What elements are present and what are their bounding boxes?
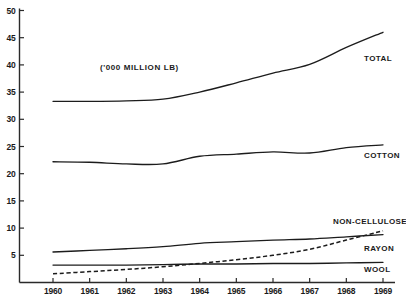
- y-tick-label: 50: [6, 6, 16, 16]
- x-tick-label: 1967: [301, 286, 320, 296]
- x-tick-label: 1966: [264, 286, 283, 296]
- x-tick-label: 1968: [337, 286, 356, 296]
- line-chart: 5101520253035404550 19601961196219631964…: [0, 0, 406, 302]
- series-label-cotton: COTTON: [364, 151, 400, 160]
- series-label-wool: WOOL: [364, 265, 390, 274]
- x-axis: 1960196119621963196419651966196719681969: [20, 278, 396, 296]
- x-tick-label: 1961: [81, 286, 100, 296]
- series-line-wool: [53, 262, 383, 265]
- x-tick-label: 1969: [374, 286, 393, 296]
- units-annotation: ('000 MILLION LB): [100, 63, 179, 72]
- x-tick-label: 1960: [44, 286, 63, 296]
- y-tick-label: 15: [6, 196, 16, 206]
- chart-canvas: 5101520253035404550 19601961196219631964…: [0, 0, 406, 302]
- series-label-non-cellulose: NON-CELLULOSE: [333, 217, 406, 226]
- y-tick-label: 30: [6, 114, 16, 124]
- series-line-cotton: [53, 145, 383, 165]
- y-tick-label: 5: [11, 250, 16, 260]
- series-label-total: TOTAL: [364, 54, 392, 63]
- x-tick-label: 1962: [117, 286, 136, 296]
- y-tick-label: 20: [6, 169, 16, 179]
- x-tick-label: 1965: [227, 286, 246, 296]
- chart-annotation: ('000 MILLION LB): [100, 63, 179, 72]
- y-axis: 5101520253035404550: [6, 6, 24, 283]
- x-tick-label: 1963: [154, 286, 173, 296]
- y-tick-label: 45: [6, 33, 16, 43]
- x-tick-label: 1964: [191, 286, 210, 296]
- y-tick-label: 25: [6, 142, 16, 152]
- y-tick-label: 10: [6, 223, 16, 233]
- y-tick-label: 35: [6, 87, 16, 97]
- series-label-rayon: RAYON: [364, 244, 394, 253]
- y-tick-label: 40: [6, 60, 16, 70]
